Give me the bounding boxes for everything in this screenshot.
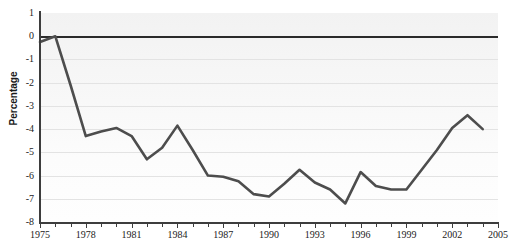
y-tick-label: -4 bbox=[8, 124, 34, 134]
x-tick bbox=[147, 222, 148, 227]
x-tick bbox=[223, 222, 224, 228]
x-tick bbox=[193, 222, 194, 227]
x-tick bbox=[284, 222, 285, 227]
x-tick-label: 1975 bbox=[20, 230, 60, 240]
x-tick bbox=[315, 222, 316, 228]
x-tick bbox=[132, 222, 133, 228]
x-tick bbox=[498, 222, 499, 228]
x-tick bbox=[422, 222, 423, 227]
x-tick bbox=[269, 222, 270, 228]
x-tick-label: 1999 bbox=[386, 230, 426, 240]
series-line-percentage bbox=[40, 36, 483, 203]
y-tick-label: -3 bbox=[8, 101, 34, 111]
y-tick-label: 1 bbox=[8, 8, 34, 18]
x-tick bbox=[238, 222, 239, 227]
y-axis-line bbox=[39, 11, 41, 224]
x-tick-label: 1981 bbox=[112, 230, 152, 240]
x-tick-label: 2002 bbox=[432, 230, 472, 240]
x-tick bbox=[71, 222, 72, 227]
chart-container: Percentage 10-1-2-3-4-5-6-7-8 1975197819… bbox=[0, 0, 510, 251]
y-tick-label: -2 bbox=[8, 78, 34, 88]
x-tick-label: 1978 bbox=[66, 230, 106, 240]
x-tick bbox=[101, 222, 102, 227]
x-tick-label: 1984 bbox=[157, 230, 197, 240]
x-tick-label: 1993 bbox=[295, 230, 335, 240]
y-tick-label: -5 bbox=[8, 147, 34, 157]
x-tick bbox=[55, 222, 56, 227]
x-tick bbox=[208, 222, 209, 227]
x-tick bbox=[376, 222, 377, 227]
y-tick-label: -1 bbox=[8, 54, 34, 64]
x-tick-label: 2005 bbox=[478, 230, 510, 240]
x-tick bbox=[345, 222, 346, 227]
x-tick bbox=[86, 222, 87, 228]
plot-area bbox=[40, 13, 498, 222]
y-tick-label: -8 bbox=[8, 217, 34, 227]
x-tick-label: 1990 bbox=[249, 230, 289, 240]
series-line-chart bbox=[40, 13, 498, 222]
x-tick bbox=[483, 222, 484, 227]
y-tick-label: -7 bbox=[8, 194, 34, 204]
x-tick bbox=[437, 222, 438, 227]
x-tick bbox=[467, 222, 468, 227]
x-tick-label: 1996 bbox=[341, 230, 381, 240]
x-tick bbox=[300, 222, 301, 227]
x-tick bbox=[162, 222, 163, 227]
y-tick-label: 0 bbox=[8, 31, 34, 41]
x-tick bbox=[391, 222, 392, 227]
x-tick bbox=[40, 222, 41, 228]
x-tick bbox=[406, 222, 407, 228]
y-tick-label: -6 bbox=[8, 171, 34, 181]
x-tick bbox=[177, 222, 178, 228]
x-tick bbox=[361, 222, 362, 228]
x-tick-label: 1987 bbox=[203, 230, 243, 240]
x-tick bbox=[254, 222, 255, 227]
x-tick bbox=[330, 222, 331, 227]
x-tick bbox=[452, 222, 453, 228]
x-tick bbox=[116, 222, 117, 227]
